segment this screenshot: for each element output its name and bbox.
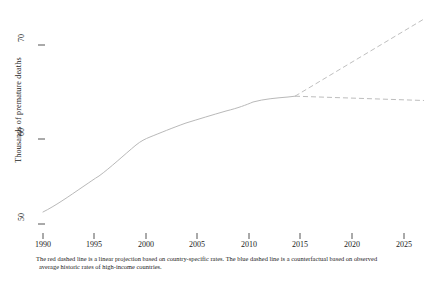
- y-tick-label-60: 60: [17, 128, 29, 150]
- series-counterfactual-line: [295, 96, 424, 100]
- y-tick-label-70: 70: [17, 34, 29, 56]
- x-tick-label-2025: 2025: [384, 240, 424, 252]
- chart-figure: Thousands of premature deaths 70 60 50 1…: [0, 0, 434, 284]
- x-tick-label-1990: 1990: [23, 240, 63, 252]
- x-tick-label-2000: 2000: [126, 240, 166, 252]
- x-tick-label-2005: 2005: [177, 240, 217, 252]
- x-tick-label-2010: 2010: [229, 240, 269, 252]
- caption-line-2: average historic rates of high-income co…: [36, 263, 428, 271]
- series-observed-line: [43, 96, 295, 212]
- y-axis-ticks: [38, 45, 45, 224]
- x-tick-label-2020: 2020: [332, 240, 372, 252]
- series-projection-line: [295, 19, 424, 96]
- chart-caption: The red dashed line is a linear projecti…: [36, 255, 428, 272]
- x-tick-label-1995: 1995: [74, 240, 114, 252]
- caption-line-1: The red dashed line is a linear projecti…: [36, 255, 377, 262]
- x-axis-ticks: [43, 233, 404, 239]
- x-tick-label-2015: 2015: [280, 240, 320, 252]
- y-tick-label-50: 50: [17, 213, 29, 235]
